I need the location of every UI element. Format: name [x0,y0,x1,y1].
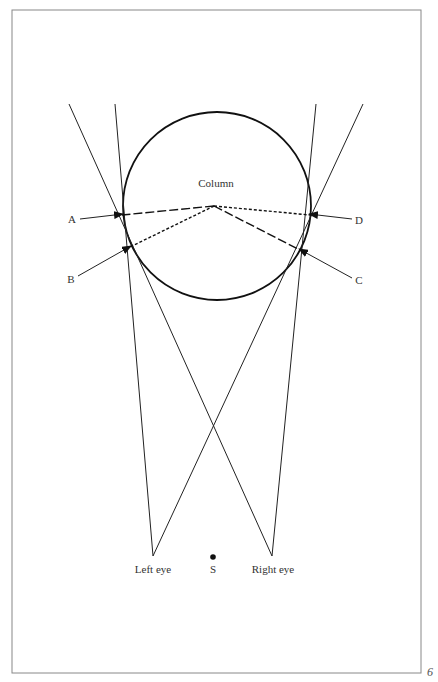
column-label: Column [198,177,234,189]
column-vision-diagram: Column A B D C S Left eye Right eye 6 [0,0,438,682]
left-eye-sightline-outer [115,104,153,556]
arrow-a [80,214,123,219]
radius-dashed-a [122,206,214,215]
page-frame [12,10,421,673]
right-eye-sightline-outer [272,104,316,556]
label-c: C [355,274,362,286]
radius-dashed-b [130,206,214,247]
right-eye-label: Right eye [252,563,295,575]
left-eye-label: Left eye [135,563,171,575]
arrow-c [299,249,352,278]
radius-dashed-c [214,206,300,250]
center-point-dot [210,554,216,560]
right-eye-sightline-cross [69,104,272,556]
label-a: A [68,213,76,225]
arrow-d [309,214,352,219]
page-number: 6 [427,665,433,679]
label-b: B [67,273,74,285]
center-point-label: S [210,563,216,575]
arrow-b [78,246,131,276]
left-eye-sightline-cross [153,104,363,556]
label-d: D [355,214,363,226]
